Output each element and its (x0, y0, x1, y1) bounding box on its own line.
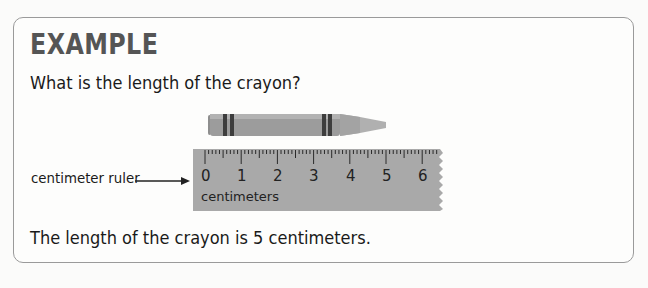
right-arrow-icon (135, 176, 190, 186)
ruler-number-5: 5 (382, 167, 392, 185)
ruler-number-0: 0 (201, 167, 211, 185)
ruler-label: centimeter ruler (31, 170, 140, 186)
ruler-number-3: 3 (309, 167, 319, 185)
crayon-image (208, 114, 388, 136)
question-text: What is the length of the crayon? (30, 72, 301, 93)
ruler-number-4: 4 (346, 167, 356, 185)
ruler-number-1: 1 (237, 167, 247, 185)
ruler-number-2: 2 (273, 167, 283, 185)
example-heading: EXAMPLE (30, 27, 158, 61)
ruler-number-6: 6 (418, 167, 428, 185)
answer-text: The length of the crayon is 5 centimeter… (30, 227, 371, 248)
ruler-unit-label: centimeters (201, 189, 279, 204)
centimeter-ruler: 0 1 2 3 4 5 6 centimeters (193, 149, 443, 211)
